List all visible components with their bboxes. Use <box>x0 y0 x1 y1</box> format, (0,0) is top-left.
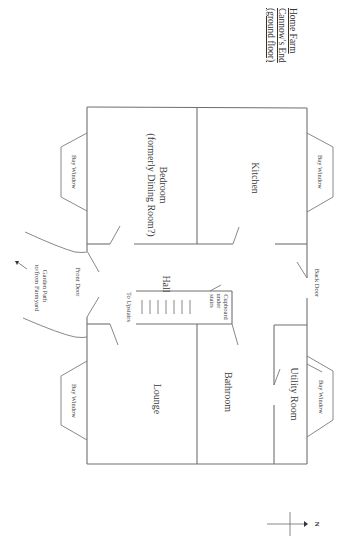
bay-window-lounge-label: Bay Window <box>71 384 78 418</box>
north-compass-icon <box>267 512 308 536</box>
to-upstairs-label: To Upstairs <box>126 292 133 323</box>
lounge-label: Lounge <box>152 384 163 415</box>
utility-label: Utility Room <box>289 367 300 420</box>
bay-window-bedroom-label: Bay Window <box>71 155 78 189</box>
interior-walls <box>87 108 307 464</box>
hall-label: Hall <box>161 275 172 292</box>
kitchen-label: Kitchen <box>250 162 261 194</box>
front-door-label: Front Door <box>75 267 82 297</box>
floor-plan: Bedroom (formerly Dining Room?) Kitchen … <box>0 0 344 550</box>
back-door-label: Back Door <box>314 269 321 298</box>
door-leaves <box>87 226 322 385</box>
bedroom-note: (formerly Dining Room?) <box>145 133 157 236</box>
cupboard-label-2: under <box>216 294 223 310</box>
compass-north-label: N <box>313 521 321 526</box>
stair-treads <box>142 300 190 314</box>
bedroom-label: Bedroom <box>158 166 169 203</box>
bay-window-kitchen-label: Bay Window <box>317 155 324 189</box>
cupboard-label-3: stairs <box>209 294 216 308</box>
garden-path-label-1: Garden Path <box>42 270 49 303</box>
cupboard-label-1: Cupboard <box>223 294 230 320</box>
garden-path-label-2: to/from Farmyard <box>34 265 41 312</box>
bathroom-label: Bathroom <box>223 372 234 412</box>
bay-window-utility-label: Bay Window <box>318 380 325 414</box>
